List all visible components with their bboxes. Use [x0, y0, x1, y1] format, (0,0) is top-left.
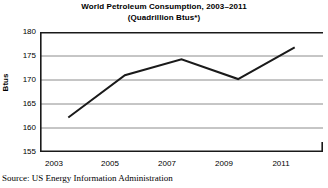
gridlines: [40, 56, 323, 128]
x-tick-label-2009: 2009: [204, 159, 244, 168]
y-tick-label-165: 165: [14, 100, 36, 108]
x-tick-label-2005: 2005: [90, 159, 130, 168]
source-note: Source: US Energy Information Administra…: [2, 173, 173, 184]
plot-area: [40, 32, 323, 152]
y-tick-label-175: 175: [14, 52, 36, 60]
y-tick-label-155: 155: [14, 148, 36, 156]
y-tick-label-170: 170: [14, 76, 36, 84]
chart-plot-svg: [40, 32, 323, 152]
chart-subtitle: (Quadrillion Btus*): [0, 12, 328, 23]
x-tick-label-2011: 2011: [261, 159, 301, 168]
y-tick-label-160: 160: [14, 124, 36, 132]
axis-frame: [40, 32, 323, 152]
y-axis-tick-labels: 180 175 170 165 160 155: [12, 0, 36, 188]
chart-figure: World Petroleum Consumption, 2003–2011 (…: [0, 0, 328, 188]
y-tick-label-180: 180: [14, 28, 36, 36]
x-tick-label-2007: 2007: [147, 159, 187, 168]
x-axis-tick-labels: 2003 2005 2007 2009 2011: [40, 159, 323, 171]
data-series-petroleum-consumption: [68, 47, 294, 117]
chart-title-block: World Petroleum Consumption, 2003–2011 (…: [0, 1, 328, 23]
chart-title: World Petroleum Consumption, 2003–2011: [0, 1, 328, 12]
x-tick-label-2003: 2003: [34, 159, 74, 168]
y-axis-title: Btus: [1, 61, 10, 105]
